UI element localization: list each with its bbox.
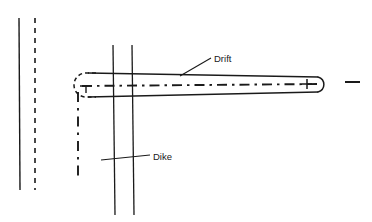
diagram-canvas: Drift Dike [0, 0, 372, 222]
dike-label: Dike [153, 151, 172, 162]
left-solid-boundary-line [19, 18, 20, 190]
drift-dike-diagram: Drift Dike [0, 0, 372, 222]
diagram-background [0, 0, 372, 222]
drift-label: Drift [214, 53, 232, 64]
